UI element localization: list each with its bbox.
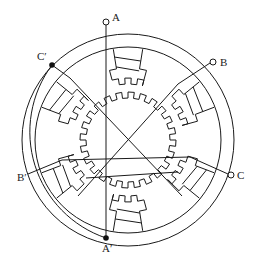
terminal-A-prime-dot-icon: [103, 235, 109, 241]
winding-wire: [62, 157, 190, 160]
coil-winding: [193, 87, 203, 112]
stator-pole: [110, 194, 147, 231]
stator-pole: [168, 156, 214, 198]
coil-winding: [53, 168, 63, 193]
terminal-B-prime-label: B′: [17, 171, 27, 183]
coil-winding: [116, 67, 139, 71]
coil-winding: [182, 166, 197, 184]
coil-winding: [59, 96, 74, 114]
terminal-C-prime-label: C′: [37, 50, 47, 62]
winding-wire: [78, 84, 178, 196]
coil-winding: [115, 57, 141, 61]
terminal-B-label: B: [220, 56, 227, 68]
terminal-B-open-circle-icon: [210, 59, 216, 65]
coil-winding: [185, 93, 193, 115]
coil-winding: [190, 170, 206, 191]
winding-wires: [62, 58, 190, 218]
terminal-A-prime-label: A′: [102, 242, 112, 254]
terminal-A-open-circle-icon: [103, 19, 109, 25]
terminal-C-open-circle-icon: [228, 172, 234, 178]
terminal-A-prime: A′: [102, 218, 112, 254]
coil-winding: [117, 209, 140, 213]
stator-pole: [42, 82, 88, 124]
terminal-C: C: [190, 157, 244, 181]
coil-winding: [115, 219, 141, 223]
terminal-C-label: C: [237, 169, 244, 181]
terminal-C-prime-dot-icon: [49, 62, 55, 68]
stepper-motor-diagram: A B C A′ B′ C′: [0, 0, 256, 266]
stator-pole: [42, 155, 84, 199]
coil-winding: [49, 89, 65, 110]
stator-pole: [110, 49, 147, 86]
coil-winding: [63, 165, 71, 187]
terminal-B-prime: B′: [17, 160, 62, 183]
terminal-A-label: A: [112, 11, 120, 23]
terminal-B: B: [178, 56, 227, 84]
stator-pole: [172, 82, 214, 126]
